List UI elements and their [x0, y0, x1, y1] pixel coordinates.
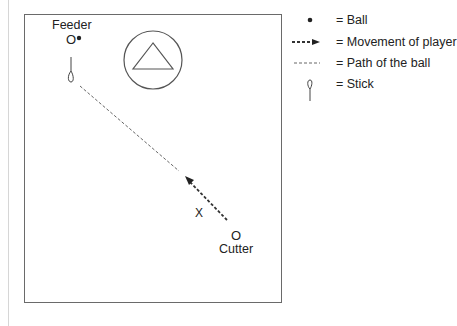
- defender-marker: X: [195, 207, 203, 219]
- ball-icon: [77, 36, 81, 40]
- legend-label: = Ball: [336, 12, 368, 28]
- goal-icon: [124, 31, 182, 89]
- legend-label: = Stick: [336, 76, 374, 92]
- legend-label: = Path of the ball: [336, 55, 430, 71]
- legend-item-ball: = Ball: [300, 12, 456, 28]
- stick-icon: [68, 57, 73, 82]
- feeder-marker: O: [66, 33, 76, 46]
- cutter-marker: O: [231, 229, 241, 242]
- cutter-label: Cutter: [219, 243, 253, 256]
- feeder-label: Feeder: [52, 19, 92, 32]
- legend-item-ball-path: = Path of the ball: [300, 55, 456, 71]
- legend-item-movement: = Movement of player: [300, 34, 456, 50]
- legend-item-stick: = Stick: [300, 76, 456, 92]
- ball-path-line: [80, 86, 179, 171]
- legend-label: = Movement of player: [336, 34, 457, 50]
